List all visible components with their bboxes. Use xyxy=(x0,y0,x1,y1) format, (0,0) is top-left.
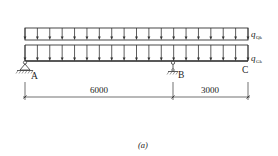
beam-diagram: A B C q Qk q Gk 6000 3000 (a) xyxy=(0,0,278,156)
free-end-c-label: C xyxy=(242,65,248,75)
dimension-bc: 3000 xyxy=(201,85,220,95)
dead-load-label: q Gk xyxy=(251,53,263,64)
live-load-arrows xyxy=(24,28,250,40)
dead-load-band xyxy=(24,45,250,61)
support-a-label: A xyxy=(31,71,38,81)
support-b-label: B xyxy=(178,70,184,80)
figure-caption: (a) xyxy=(138,140,148,150)
roller-support-icon xyxy=(167,61,178,74)
live-load-band xyxy=(24,28,250,40)
live-load-label: q Qk xyxy=(251,29,263,40)
svg-text:Gk: Gk xyxy=(256,59,263,64)
dimension-ab: 6000 xyxy=(90,85,109,95)
svg-text:Qk: Qk xyxy=(256,35,263,40)
dead-load-arrows xyxy=(24,45,250,61)
